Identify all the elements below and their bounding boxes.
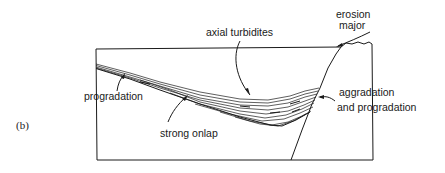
label-and-progradation: and progradation bbox=[337, 101, 417, 113]
label-strong-onlap: strong onlap bbox=[160, 127, 218, 139]
label-aggradation: aggradation bbox=[339, 86, 395, 98]
panel-label: (b) bbox=[16, 119, 29, 132]
basin-cross-section-diagram: axial turbidites erosion major progradat… bbox=[0, 0, 445, 173]
label-major: major bbox=[339, 19, 366, 31]
label-progradation: progradation bbox=[84, 90, 143, 102]
arrowhead-icon bbox=[318, 95, 324, 99]
arrowhead-icon bbox=[245, 88, 250, 95]
label-axial-turbidites: axial turbidites bbox=[206, 26, 273, 38]
